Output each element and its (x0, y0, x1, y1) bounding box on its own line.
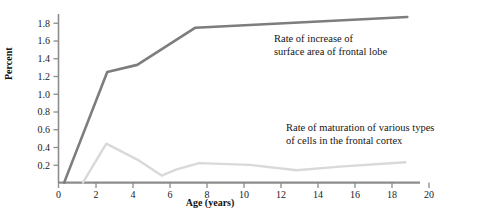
chart-figure: 0.2 0.4 0.6 0.8 1.0 1.2 1.4 1.6 1.8 0 2 … (0, 0, 487, 219)
y-axis-title: Percent (4, 66, 14, 80)
y-tick-label-0.6: 0.6 (24, 125, 50, 135)
y-tick-label-0.8: 0.8 (24, 107, 50, 117)
y-tick-label-1.0: 1.0 (24, 90, 50, 100)
y-tick-label-0.2: 0.2 (24, 161, 50, 171)
annotation-maturation-line1: Rate of maturation of various types (286, 122, 434, 135)
y-tick-label-1.6: 1.6 (24, 36, 50, 46)
x-axis-title: Age (years) (0, 198, 420, 208)
annotation-frontal-lobe-line2: surface area of frontal lobe (274, 46, 387, 59)
x-tick-label-20: 20 (419, 190, 439, 200)
annotation-frontal-lobe: Rate of increase of surface area of fron… (274, 33, 387, 58)
annotation-maturation-line2: of cells in the frontal cortex (286, 135, 434, 148)
y-tick-label-1.8: 1.8 (24, 19, 50, 29)
y-tick-label-1.4: 1.4 (24, 54, 50, 64)
y-tick-label-1.2: 1.2 (24, 72, 50, 82)
annotation-frontal-lobe-line1: Rate of increase of (274, 33, 387, 46)
y-tick-label-0.4: 0.4 (24, 143, 50, 153)
chart-plot-area (0, 0, 487, 219)
annotation-maturation: Rate of maturation of various types of c… (286, 122, 434, 147)
series-line-maturation (83, 144, 406, 183)
